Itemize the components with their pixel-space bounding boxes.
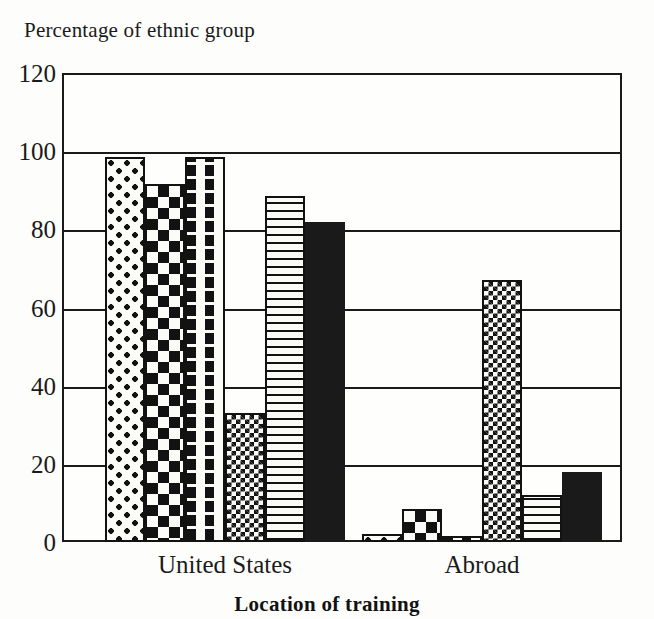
y-tick-label-100: 100 <box>0 139 56 164</box>
gridline-60 <box>64 309 620 311</box>
gridline-20 <box>64 465 620 467</box>
chart-title: Percentage of ethnic group <box>24 18 255 43</box>
category-label-abroad: Abroad <box>445 551 520 579</box>
chart-page: Percentage of ethnic group 0204060801001… <box>0 0 654 619</box>
plot-area <box>62 73 622 542</box>
y-tick-label-40: 40 <box>0 373 56 398</box>
gridline-80 <box>64 230 620 232</box>
gridline-100 <box>64 152 620 154</box>
y-tick-label-80: 80 <box>0 217 56 242</box>
y-tick-label-20: 20 <box>0 451 56 476</box>
y-tick-label-60: 60 <box>0 295 56 320</box>
y-tick-label-120: 120 <box>0 61 56 86</box>
x-axis-title: Location of training <box>0 592 654 617</box>
y-axis-tick-labels: 020406080100120 <box>0 73 56 542</box>
y-tick-label-0: 0 <box>0 530 56 555</box>
gridline-40 <box>64 387 620 389</box>
category-label-united-states: United States <box>158 551 292 579</box>
